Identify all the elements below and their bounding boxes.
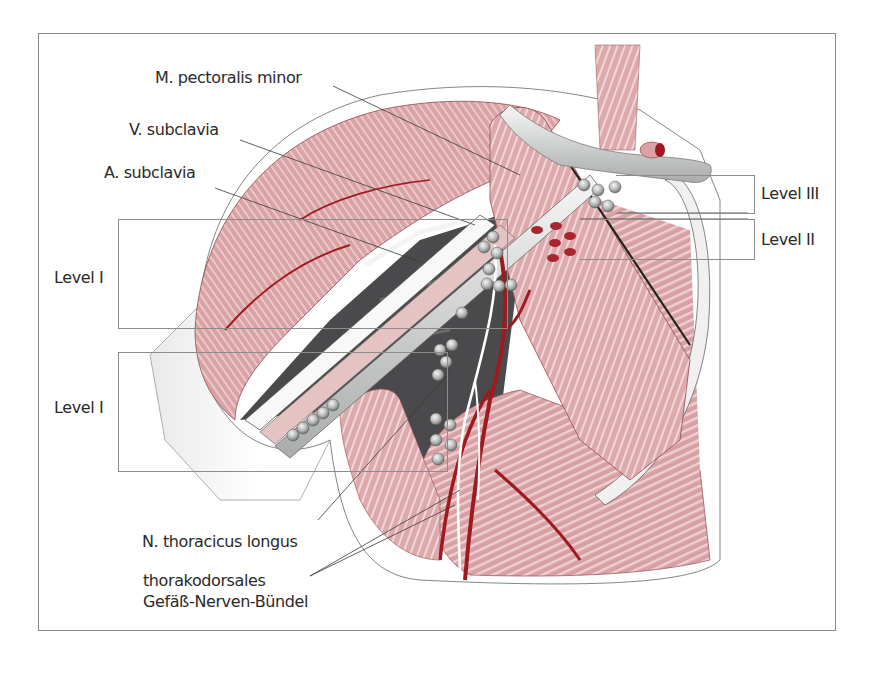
label-n-thoracicus-longus: N. thoracicus longus <box>142 532 297 551</box>
level-1-lower-box <box>118 352 448 472</box>
level-3-box <box>616 175 755 214</box>
label-thorakodorsales-line1: thorakodorsales <box>143 571 265 590</box>
level-2-box <box>580 219 755 260</box>
axilla-illustration <box>0 0 873 675</box>
label-a-subclavia: A. subclavia <box>104 163 195 182</box>
label-level-2: Level II <box>761 230 815 249</box>
label-pectoralis-minor: M. pectoralis minor <box>155 68 301 87</box>
subclavius-muscle <box>595 45 640 150</box>
level-1-upper-box <box>118 219 508 329</box>
label-level-1-lower: Level I <box>54 398 103 417</box>
label-level-1-upper: Level I <box>54 268 103 287</box>
label-level-3: Level III <box>761 184 819 203</box>
label-thorakodorsales-line2: Gefäß-Nerven-Bündel <box>143 592 308 611</box>
label-v-subclavia: V. subclavia <box>129 120 219 139</box>
